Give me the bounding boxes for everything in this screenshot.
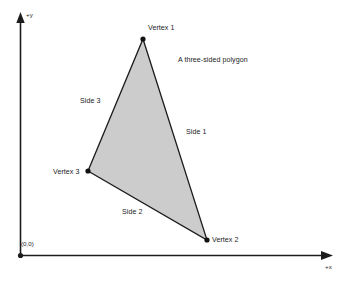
side-2-label: Side 2: [122, 209, 142, 216]
diagram-canvas: (0,0) +y +x Vertex 1 Vertex 2 Vertex 3 S…: [0, 0, 343, 283]
triangle-shape: [88, 39, 207, 240]
y-axis-label: +y: [26, 12, 33, 18]
vertex-2-marker: [204, 237, 209, 242]
figure-caption: A three-sided polygon: [178, 57, 248, 64]
vertex-1-label: Vertex 1: [148, 25, 174, 32]
x-axis-label: +x: [325, 264, 332, 270]
side-3-label: Side 3: [80, 98, 100, 105]
vertex-1-marker: [140, 36, 145, 41]
origin-point-marker: [18, 253, 23, 258]
x-axis-arrowhead-icon: [321, 251, 333, 260]
vertex-3-label: Vertex 3: [53, 169, 79, 176]
side-1-label: Side 1: [186, 129, 206, 136]
origin-label: (0,0): [21, 241, 34, 247]
y-axis-arrowhead-icon: [16, 12, 24, 23]
vertex-3-marker: [85, 168, 90, 173]
polygon-diagram-graphic: [0, 0, 343, 283]
vertex-2-label: Vertex 2: [212, 237, 238, 244]
